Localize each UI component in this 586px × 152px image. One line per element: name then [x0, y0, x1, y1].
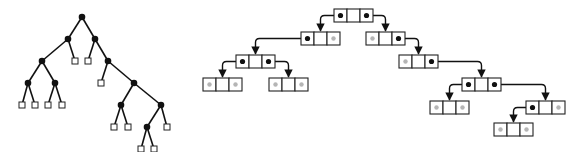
- null-pointer-icon: [434, 105, 438, 109]
- pointer-dot-icon: [305, 36, 310, 41]
- node-record: [526, 101, 565, 114]
- external-node: [151, 146, 157, 152]
- node-record: [269, 78, 308, 91]
- internal-node: [79, 14, 86, 21]
- node-record: [430, 101, 469, 114]
- external-node: [98, 80, 104, 86]
- internal-node: [118, 102, 125, 109]
- node-record: [236, 55, 275, 68]
- pointer-dot-icon: [530, 105, 535, 110]
- tree-edge: [42, 61, 55, 83]
- tree-edge: [134, 83, 161, 105]
- node-record: [399, 55, 438, 68]
- internal-node: [158, 102, 165, 109]
- node-record: [462, 78, 501, 91]
- pointer-dot-icon: [266, 59, 271, 64]
- node-record: [366, 32, 405, 45]
- null-pointer-icon: [524, 127, 528, 131]
- pointer-dot-icon: [396, 36, 401, 41]
- tree-edge: [82, 17, 95, 39]
- internal-node: [52, 80, 59, 87]
- key-cell: [412, 55, 425, 68]
- external-node: [45, 102, 51, 108]
- null-pointer-icon: [299, 82, 303, 86]
- node-record: [494, 123, 533, 136]
- external-node: [111, 124, 117, 130]
- key-cell: [347, 9, 360, 22]
- key-cell: [379, 32, 392, 45]
- key-cell: [507, 123, 520, 136]
- key-cell: [314, 32, 327, 45]
- external-node: [125, 124, 131, 130]
- tree-edge: [68, 17, 82, 39]
- pointer-dot-icon: [364, 13, 369, 18]
- tree-edge: [28, 61, 42, 83]
- node-record: [334, 9, 373, 22]
- key-cell: [443, 101, 456, 114]
- pointer-dot-icon: [492, 82, 497, 87]
- tree-diagram: [0, 0, 586, 152]
- external-node: [32, 102, 38, 108]
- tree-edge: [42, 39, 68, 61]
- node-record: [301, 32, 340, 45]
- external-node: [85, 58, 91, 64]
- null-pointer-icon: [331, 36, 335, 40]
- linked-binary-tree: [203, 9, 565, 136]
- external-node: [164, 124, 170, 130]
- tree-edge: [121, 83, 134, 105]
- pointer-arrow: [256, 39, 308, 55]
- internal-node: [144, 124, 151, 131]
- pointer-dot-icon: [466, 82, 471, 87]
- null-pointer-icon: [460, 105, 464, 109]
- external-node: [19, 102, 25, 108]
- key-cell: [539, 101, 552, 114]
- key-cell: [282, 78, 295, 91]
- external-node: [72, 58, 78, 64]
- pointer-dot-icon: [429, 59, 434, 64]
- pointer-dot-icon: [338, 13, 343, 18]
- node-record: [203, 78, 242, 91]
- external-node: [138, 146, 144, 152]
- abstract-binary-tree: [19, 14, 170, 152]
- tree-nodes: [19, 14, 170, 152]
- internal-node: [65, 36, 72, 43]
- key-cell: [475, 78, 488, 91]
- tree-edge: [108, 61, 134, 83]
- key-cell: [216, 78, 229, 91]
- null-pointer-icon: [498, 127, 502, 131]
- pointer-arrow: [495, 85, 546, 101]
- key-cell: [249, 55, 262, 68]
- internal-node: [25, 80, 32, 87]
- null-pointer-icon: [370, 36, 374, 40]
- pointer-dot-icon: [240, 59, 245, 64]
- node-records: [203, 9, 565, 136]
- null-pointer-icon: [556, 105, 560, 109]
- tree-edge: [95, 39, 108, 61]
- tree-edge: [147, 105, 161, 127]
- null-pointer-icon: [207, 82, 211, 86]
- internal-node: [92, 36, 99, 43]
- null-pointer-icon: [273, 82, 277, 86]
- internal-node: [105, 58, 112, 65]
- null-pointer-icon: [233, 82, 237, 86]
- pointer-arrow: [432, 62, 482, 78]
- null-pointer-icon: [403, 59, 407, 63]
- external-node: [59, 102, 65, 108]
- internal-node: [131, 80, 138, 87]
- internal-node: [39, 58, 46, 65]
